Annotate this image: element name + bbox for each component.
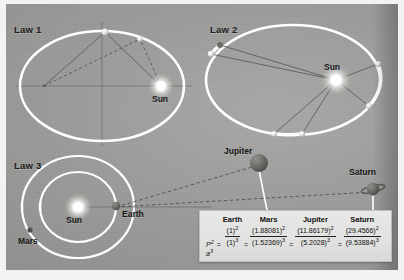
equals-sign-0: = — [215, 240, 223, 258]
law2-vector-2 — [211, 54, 336, 80]
law1-sun-label: Sun — [152, 94, 168, 104]
ratio-denominator-exp: 3 — [210, 248, 213, 254]
law2-label: Law 2 — [210, 24, 237, 35]
saturn-label: Saturn — [349, 167, 376, 177]
law2-sun-core — [331, 75, 342, 86]
law1-panel — [16, 22, 192, 146]
fraction-denominator: (5.2028)3 — [299, 237, 332, 247]
law1-planet-primary — [101, 28, 108, 35]
denominator-base: (5.2028) — [301, 239, 327, 246]
saturn-body — [367, 183, 379, 195]
denominator-base: (1.52369) — [252, 239, 282, 246]
equals-sign-2: = — [287, 240, 295, 258]
law2-vector-1 — [220, 45, 336, 80]
jupiter-pointer-stem — [259, 170, 268, 215]
table-column-earth: Earth (1)2 (1)3 — [223, 215, 242, 247]
planet-fraction: (29.4566)2 (9.53884)3 — [344, 226, 381, 247]
law3-earth-label: Earth — [122, 209, 144, 219]
law3-sun-core — [73, 202, 83, 212]
law3-mars-body — [27, 227, 32, 232]
equals-sign-1: = — [242, 240, 250, 258]
planet-fraction: (1.88081)2 (1.52369)3 — [250, 226, 287, 247]
law2-sun-label: Sun — [324, 62, 340, 72]
law3-mars-label: Mars — [18, 236, 38, 246]
fraction-numerator: (1)2 — [225, 226, 241, 237]
numerator-exp: 2 — [282, 225, 285, 231]
planet-fraction: (11.86179)2 (5.2028)3 — [295, 226, 335, 247]
numerator-exp: 2 — [235, 225, 238, 231]
law1-sun-core — [156, 81, 166, 91]
law1-label: Law 1 — [14, 24, 41, 35]
numerator-exp: 2 — [376, 225, 379, 231]
denominator-exp: 3 — [235, 237, 238, 243]
denominator-base: (9.53884) — [346, 239, 376, 246]
jupiter-body — [250, 154, 268, 172]
table-column-mars: Mars (1.88081)2 (1.52369)3 — [250, 215, 287, 247]
table-column-saturn: Saturn (29.4566)2 (9.53884)3 — [344, 215, 381, 247]
law2-planet-3 — [271, 131, 277, 137]
law2-planet-4 — [299, 131, 305, 137]
denominator-base: (1) — [227, 239, 236, 246]
law2-arc-segment-c — [369, 64, 381, 106]
law3-sun-label: Sun — [66, 215, 82, 225]
kepler-third-law-table: P2 a3 = Earth (1)2 (1)3 = Mars (1.88081)… — [199, 210, 392, 262]
table-column-jupiter: Jupiter (11.86179)2 (5.2028)3 — [295, 215, 335, 247]
numerator-base: (1.88081) — [252, 227, 282, 234]
planet-name: Jupiter — [303, 215, 328, 225]
law2-planet-5 — [366, 103, 372, 109]
law2-planet-1 — [217, 42, 223, 48]
ratio-denominator: a3 — [206, 249, 214, 258]
numerator-exp: 2 — [331, 225, 334, 231]
law3-sightline-earth-saturn — [116, 192, 371, 207]
law3-sightline-earth-jupiter — [116, 165, 259, 207]
fraction-denominator: (9.53884)3 — [344, 237, 381, 247]
law2-panel — [206, 25, 381, 137]
fraction-denominator: (1.52369)3 — [250, 237, 287, 247]
law2-planet-2 — [208, 51, 214, 57]
kepler-laws-figure: Law 1 Sun Law 2 Sun Law 3 Sun Earth Mars… — [0, 0, 404, 280]
law2-arc-segment-b — [274, 134, 302, 135]
law1-vector-focus1-to-planet — [44, 32, 105, 86]
law2-orbit-ellipse — [206, 25, 380, 135]
fraction-numerator: (29.4566)2 — [344, 226, 381, 237]
law1-focus-marker — [43, 85, 46, 88]
numerator-base: (1) — [227, 227, 236, 234]
ratio-numerator-exp: 2 — [211, 239, 214, 245]
table-grid: P2 a3 = Earth (1)2 (1)3 = Mars (1.88081)… — [206, 215, 386, 258]
law1-dashed-vector-focus1 — [44, 39, 140, 86]
denominator-exp: 3 — [282, 237, 285, 243]
planet-fraction: (1)2 (1)3 — [225, 226, 241, 247]
numerator-base: (29.4566) — [346, 227, 376, 234]
denominator-exp: 3 — [327, 237, 330, 243]
numerator-base: (11.86179) — [297, 227, 330, 234]
planet-name: Mars — [260, 215, 278, 225]
equals-sign-3: = — [336, 240, 344, 258]
law1-planet-secondary — [137, 36, 143, 42]
denominator-exp: 3 — [376, 237, 379, 243]
jupiter-label: Jupiter — [224, 146, 252, 156]
fraction-numerator: (1.88081)2 — [250, 226, 287, 237]
planet-name: Saturn — [350, 215, 374, 225]
law2-planet-6 — [375, 61, 381, 67]
planet-name: Earth — [223, 215, 242, 225]
fraction-numerator: (11.86179)2 — [295, 226, 335, 237]
fraction-denominator: (1)3 — [225, 237, 241, 247]
law3-label: Law 3 — [14, 160, 41, 171]
law3-earth-body — [112, 202, 120, 210]
ratio-label: P2 a3 — [206, 215, 214, 261]
